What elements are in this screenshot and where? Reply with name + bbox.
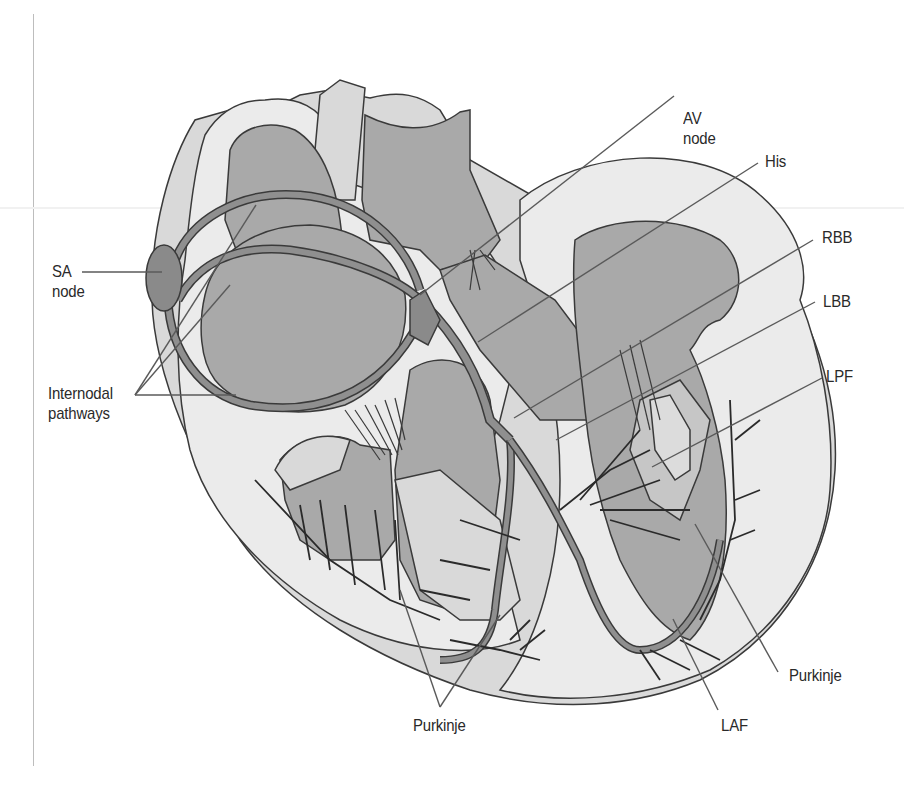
sa-node xyxy=(146,245,182,311)
label-sa-node-line1: SA xyxy=(52,262,85,282)
label-rbb: RBB xyxy=(822,228,852,248)
label-lpf: LPF xyxy=(826,367,853,387)
label-sa-node-line2: node xyxy=(52,282,85,302)
label-lbb: LBB xyxy=(823,292,851,312)
label-internodal-line2: pathways xyxy=(48,404,113,424)
label-internodal-line1: Internodal xyxy=(48,384,113,404)
label-purkinje-right: Purkinje xyxy=(789,666,842,686)
label-his: His xyxy=(765,152,786,172)
label-purkinje-left: Purkinje xyxy=(413,716,466,736)
heart-conduction-diagram xyxy=(0,0,904,794)
label-av-node-line1: AV xyxy=(683,109,716,129)
label-sa-node: SA node xyxy=(52,262,85,302)
label-internodal-pathways: Internodal pathways xyxy=(48,384,113,424)
label-av-node-line2: node xyxy=(683,129,716,149)
label-av-node: AV node xyxy=(683,109,716,149)
label-laf: LAF xyxy=(721,716,748,736)
